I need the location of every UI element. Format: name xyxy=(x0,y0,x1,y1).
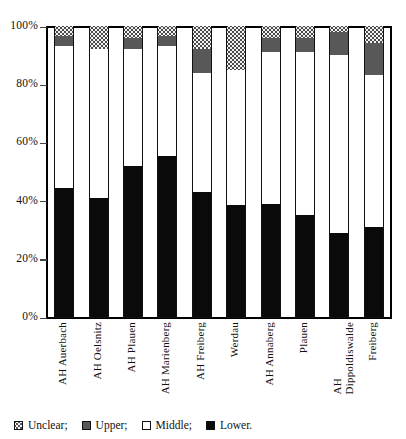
bar-segment-upper xyxy=(55,36,73,46)
bar-segment-upper xyxy=(365,43,383,75)
x-axis-label: Freiberg xyxy=(367,322,379,361)
bar-segment-upper xyxy=(330,32,348,55)
bar[interactable] xyxy=(54,27,74,318)
bar-segment-lower xyxy=(330,233,348,317)
x-axis-label: Werdau xyxy=(229,322,241,357)
legend-item-middle[interactable]: Middle; xyxy=(142,419,192,431)
bar-segment-unclear xyxy=(227,26,245,70)
bar-segment-unclear xyxy=(262,26,280,38)
bar[interactable] xyxy=(329,27,349,318)
bar[interactable] xyxy=(226,27,246,318)
bar-segment-middle xyxy=(55,46,73,187)
bar-segment-unclear xyxy=(296,26,314,38)
legend-label: Upper; xyxy=(96,419,128,431)
bar-segment-lower xyxy=(193,192,211,317)
legend-item-lower[interactable]: Lower. xyxy=(206,419,252,431)
bar-segment-middle xyxy=(227,70,245,205)
bar-segment-upper xyxy=(262,38,280,53)
bar-segment-lower xyxy=(296,215,314,317)
bar-segment-lower xyxy=(227,205,245,317)
x-axis-label: AH Auerbach xyxy=(57,322,69,385)
y-axis-tick xyxy=(40,143,47,144)
y-axis-tick xyxy=(40,259,47,260)
chart-legend: Unclear;Upper;Middle;Lower. xyxy=(14,419,266,431)
y-axis-tick xyxy=(40,201,47,202)
y-axis-tick xyxy=(40,85,47,86)
bar[interactable] xyxy=(157,27,177,318)
bar-segment-upper xyxy=(124,38,142,50)
bar-segment-middle xyxy=(296,52,314,215)
x-axis-label: AH Plauen xyxy=(126,322,138,372)
y-axis-tick-label: 40% xyxy=(16,194,38,206)
legend-swatch-middle-icon xyxy=(142,421,151,430)
y-axis-tick-label: 60% xyxy=(16,135,38,147)
x-axis-label: AH Freiberg xyxy=(195,322,207,380)
bar-segment-lower xyxy=(365,227,383,317)
y-axis-tick-label: 0% xyxy=(22,310,38,322)
bar-segment-unclear xyxy=(365,26,383,43)
stacked-bar-chart: 0%20%40%60%80%100% AH AuerbachAH Oelsnit… xyxy=(0,0,406,439)
legend-item-upper[interactable]: Upper; xyxy=(82,419,128,431)
bar-segment-middle xyxy=(124,49,142,165)
bar-segment-middle xyxy=(330,55,348,233)
legend-swatch-lower-icon xyxy=(206,421,215,430)
x-axis-label: AH Annaberg xyxy=(264,322,276,385)
bar[interactable] xyxy=(261,27,281,318)
legend-label: Unclear; xyxy=(28,419,68,431)
bar-segment-lower xyxy=(158,156,176,318)
bar-segment-lower xyxy=(55,188,73,317)
bar-segment-unclear xyxy=(55,26,73,36)
bar-segment-unclear xyxy=(330,26,348,32)
bar[interactable] xyxy=(295,27,315,318)
bar[interactable] xyxy=(364,27,384,318)
bar-segment-unclear xyxy=(90,26,108,49)
bar-segment-upper xyxy=(296,38,314,53)
legend-label: Middle; xyxy=(156,419,192,431)
y-axis-tick xyxy=(40,318,47,319)
bar-segment-lower xyxy=(262,204,280,317)
y-axis-tick-label: 20% xyxy=(16,252,38,264)
bar-segment-middle xyxy=(262,52,280,203)
x-axis-label: Plauen xyxy=(298,322,310,353)
bar-segment-unclear xyxy=(158,26,176,36)
legend-label: Lower. xyxy=(220,419,252,431)
x-axis-label: AH Marienberg xyxy=(160,322,172,394)
bar-segment-lower xyxy=(124,166,142,317)
y-axis-tick xyxy=(40,27,47,28)
bar-segment-middle xyxy=(158,46,176,155)
x-axis-label: AH Oelsnitz xyxy=(92,322,104,380)
bar-segment-unclear xyxy=(193,26,211,49)
bar-segment-upper xyxy=(193,49,211,72)
y-axis-tick-label: 100% xyxy=(10,19,38,31)
bar-segment-upper xyxy=(158,36,176,46)
legend-swatch-unclear-icon xyxy=(14,421,23,430)
legend-item-unclear[interactable]: Unclear; xyxy=(14,419,68,431)
y-axis-tick-label: 80% xyxy=(16,77,38,89)
plot-area xyxy=(47,27,391,318)
bar[interactable] xyxy=(192,27,212,318)
bar[interactable] xyxy=(123,27,143,318)
bar-segment-lower xyxy=(90,198,108,317)
bar-segment-unclear xyxy=(124,26,142,38)
x-axis-label: AH Dippoldiswalde xyxy=(332,322,355,394)
bar[interactable] xyxy=(89,27,109,318)
bar-segment-middle xyxy=(365,75,383,226)
legend-swatch-upper-icon xyxy=(82,421,91,430)
bar-segment-middle xyxy=(193,73,211,192)
bar-segment-middle xyxy=(90,49,108,197)
